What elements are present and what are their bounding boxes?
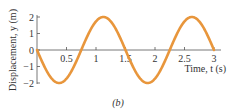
y-tick-label: 2 [29,12,34,23]
y-axis-label: Displacement, y (m) [7,9,19,91]
x-ticks: 0.511.522.53 [60,47,216,64]
y-tick-label: −1 [23,61,34,72]
x-axis-label: Time, t (s) [184,63,226,75]
x-tick-label: 0.5 [60,53,73,64]
x-tick-label: 1 [94,53,99,64]
y-tick-label: −2 [23,78,34,89]
x-tick-label: 2 [153,53,158,64]
displacement-time-chart: Displacement, y (m) 210−1−2 0.511.522.53… [0,0,234,111]
figure-caption: (b) [112,97,124,109]
y-tick-label: 1 [29,28,34,39]
y-tick-label: 0 [29,45,34,56]
